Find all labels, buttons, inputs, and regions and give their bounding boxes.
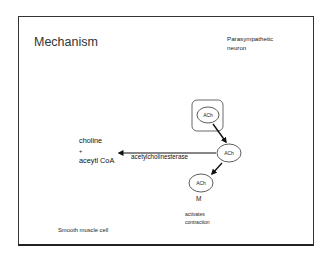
mechanism-diagram: ACh ACh ACh bbox=[0, 0, 335, 258]
vesicle-ach-label: ACh bbox=[203, 112, 213, 118]
synaptic-ach-node: ACh bbox=[217, 144, 241, 162]
release-arrow bbox=[213, 124, 226, 142]
effect-line1: activates bbox=[185, 210, 209, 218]
receptor-ach-node: ACh bbox=[189, 174, 213, 192]
vesicle-ach-node: ACh bbox=[197, 107, 219, 123]
effect-line2: contraction bbox=[185, 218, 209, 226]
receptor-ach-label: ACh bbox=[196, 180, 206, 186]
smooth-muscle-cell-label: Smooth muscle cell bbox=[58, 227, 108, 233]
binding-arrow bbox=[212, 163, 222, 174]
synaptic-ach-label: ACh bbox=[224, 150, 234, 156]
effect-label: activates contraction bbox=[185, 210, 209, 226]
muscarinic-receptor-label: M bbox=[196, 195, 201, 202]
